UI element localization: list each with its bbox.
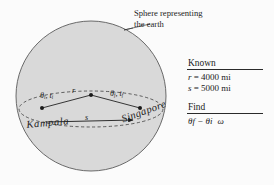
theta-final-label: θf, tf xyxy=(110,89,123,98)
known-block: Known r = 4000 mi s = 5000 mi xyxy=(187,58,267,93)
known-radius-value: = 4000 mi xyxy=(194,72,231,82)
arc-length-label: s xyxy=(85,113,88,122)
problem-panel: Known r = 4000 mi s = 5000 mi Find θf − … xyxy=(187,58,267,135)
radius-label: r xyxy=(72,86,75,95)
known-arc-value: = 5000 mi xyxy=(194,83,231,93)
known-heading: Known xyxy=(187,58,267,68)
find-omega-symbol: ω xyxy=(217,116,223,126)
find-expression-line: θf − θiω xyxy=(187,116,267,126)
known-line-radius: r = 4000 mi xyxy=(187,72,267,82)
known-divider xyxy=(187,69,263,70)
find-heading: Find xyxy=(187,102,267,112)
known-line-arc: s = 5000 mi xyxy=(187,83,267,93)
figure-container: Sphere representing the earth θi, ti θf,… xyxy=(0,0,274,185)
sphere-center-point xyxy=(89,93,93,97)
find-divider xyxy=(187,113,263,114)
kampala-point xyxy=(40,106,44,110)
sphere-annotation-label: Sphere representing the earth xyxy=(134,8,210,31)
find-block: Find θf − θiω xyxy=(187,102,267,126)
known-arc-symbol: s xyxy=(188,83,192,93)
find-expression: θf − θi xyxy=(188,116,212,126)
known-radius-symbol: r xyxy=(188,72,192,82)
theta-initial-label: θi, ti xyxy=(40,91,53,100)
